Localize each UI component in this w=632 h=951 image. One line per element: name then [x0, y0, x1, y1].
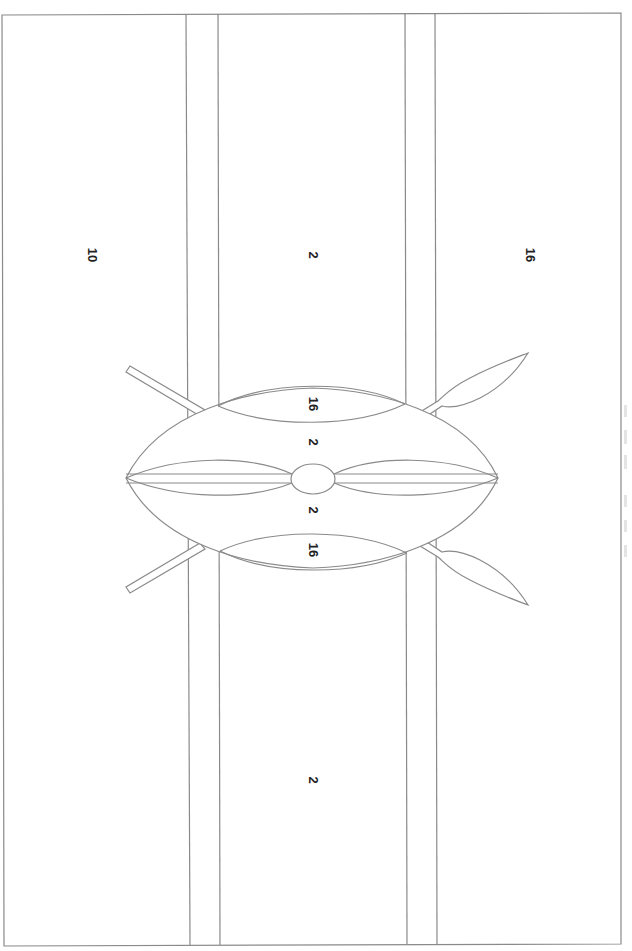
faint-margin-mark	[624, 495, 627, 507]
region-label-stripe-top: 10	[85, 248, 100, 262]
region-label-stripe-middle-lower: 2	[306, 776, 321, 783]
region-label-stripe-middle-upper: 2	[306, 251, 321, 258]
faint-margin-mark	[624, 520, 627, 532]
region-label-stripe-bottom: 16	[523, 248, 538, 262]
region-label-shield-lower-center: 2	[306, 506, 321, 513]
faint-margin-mark	[624, 455, 627, 469]
region-label-shield-upper-center: 2	[306, 438, 321, 445]
faint-margin-mark	[624, 545, 627, 557]
faint-margin-mark	[624, 430, 627, 444]
faint-margin-mark	[624, 405, 627, 417]
shield-boss	[291, 464, 335, 494]
flag-outline	[0, 0, 632, 951]
region-label-shield-upper-band: 16	[306, 397, 321, 411]
region-label-shield-lower-band: 16	[306, 543, 321, 557]
